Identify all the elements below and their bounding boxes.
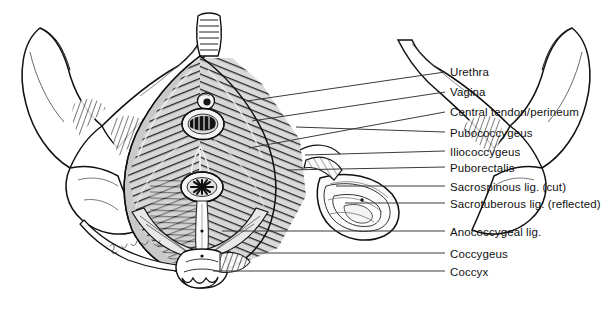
- label-puborectalis: Puborectalis: [450, 162, 514, 174]
- label-urethra: Urethra: [450, 66, 489, 78]
- anatomy-figure: UrethraVaginaCentral tendon/perineumPubo…: [0, 0, 612, 310]
- label-iliococcygeus: Iliococcygeus: [450, 146, 520, 158]
- label-central-tendon: Central tendon/perineum: [450, 106, 579, 118]
- anococcygeal-ligament: [196, 201, 209, 250]
- anal-orifice: [181, 172, 223, 202]
- label-anococcygeal: Anococcygeal lig.: [450, 226, 541, 238]
- pubic-symphysis: [197, 13, 222, 56]
- vaginal-orifice: [182, 109, 224, 140]
- urethral-orifice: [198, 93, 215, 109]
- label-coccygeus: Coccygeus: [450, 248, 508, 260]
- label-coccyx: Coccyx: [450, 266, 488, 278]
- label-sacrotuberous: Sacrotuberous lig. (reflected): [450, 198, 601, 210]
- label-pubococcygeus: Pubococcygeus: [450, 127, 533, 139]
- label-sacrospinous: Sacrospinous lig. (cut): [450, 181, 566, 193]
- label-vagina: Vagina: [450, 86, 486, 98]
